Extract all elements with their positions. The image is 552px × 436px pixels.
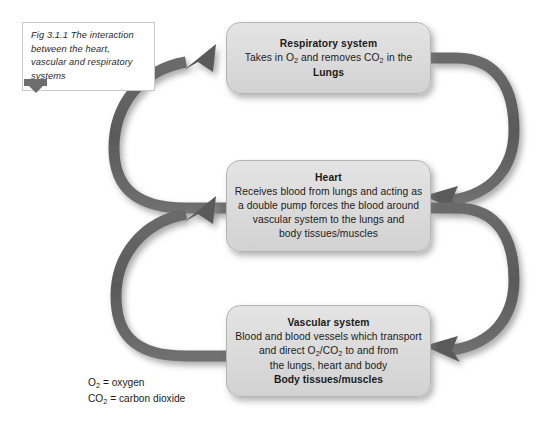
figure-canvas: Fig 3.1.1 The interaction between the he… [0,0,552,436]
node-heart: Heart Receives blood from lungs and acti… [226,160,431,252]
node-heart-line-1: Receives blood from lungs and acting as [235,185,422,199]
node-vascular-line-3: the lungs, heart and body [270,359,387,373]
legend-item-oxygen: O2 = oxygen [88,376,185,392]
node-vascular-line-1: Blood and blood vessels which transport [235,330,421,344]
bookmark-flag-tip-icon [29,86,43,93]
node-respiratory-system: Respiratory system Takes in O2 and remov… [226,22,431,94]
node-heart-title: Heart [315,171,342,185]
node-respiratory-line-1: Takes in O2 and removes CO2 in the [245,51,412,66]
legend-text-oxygen: = oxygen [100,377,144,388]
node-vascular-system: Vascular system Blood and blood vessels … [226,305,431,397]
legend-text-carbon-dioxide: = carbon dioxide [107,393,185,404]
bookmark-flag-icon [24,79,47,86]
legend-symbol-co2: CO2 [88,393,107,404]
figure-caption-text: Fig 3.1.1 The interaction between the he… [31,29,147,83]
arrow-respiratory-to-heart [424,58,514,212]
node-vascular-line-4: Body tissues/muscles [274,373,383,387]
node-heart-line-3: vascular system to the lungs and [253,213,405,227]
legend-symbol-o2: O2 [88,377,100,388]
node-respiratory-title: Respiratory system [280,37,377,51]
legend: O2 = oxygen CO2 = carbon dioxide [88,376,185,407]
node-vascular-title: Vascular system [287,316,369,330]
node-heart-line-4: body tissues/muscles [279,227,378,241]
legend-item-carbon-dioxide: CO2 = carbon dioxide [88,392,185,408]
node-respiratory-line-2: Lungs [313,66,344,80]
node-heart-line-2: a double pump forces the blood around [238,199,419,213]
arrow-vascular-to-heart [116,196,226,356]
node-vascular-line-2: and direct O2/CO2 to and from [259,344,398,359]
arrow-heart-to-vascular [424,208,514,362]
